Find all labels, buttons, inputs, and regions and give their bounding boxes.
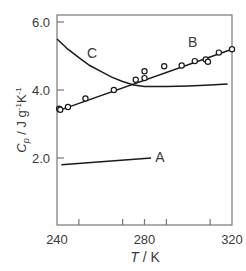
data-point-marker	[216, 50, 221, 55]
series-a-line	[61, 158, 151, 165]
y-tick-label: 4.0	[32, 83, 50, 98]
y-tick-label: 6.0	[32, 15, 50, 30]
series-label-a: A	[155, 149, 165, 165]
x-axis-label: T / K	[130, 249, 160, 265]
data-series	[57, 39, 235, 165]
axes-frame	[57, 15, 232, 225]
axis-ticks: 2402803202.04.06.0	[32, 15, 243, 247]
series-label-c: C	[87, 45, 97, 61]
data-point-marker	[192, 59, 197, 64]
x-tick-label: 320	[221, 232, 243, 247]
heat-capacity-chart: 2402803202.04.06.0 ABC T / K Cp / J g-1K…	[0, 0, 246, 271]
data-point-marker	[133, 77, 138, 82]
data-point-marker	[83, 96, 88, 101]
y-tick-label: 2.0	[32, 151, 50, 166]
data-point-marker	[205, 59, 210, 64]
data-point-marker	[65, 104, 70, 109]
data-point-marker	[58, 107, 63, 112]
series-label-b: B	[188, 34, 197, 50]
plot-area: 2402803202.04.06.0 ABC T / K Cp / J g-1K…	[0, 0, 246, 271]
y-axis-label: Cp / J g-1K-1	[14, 87, 31, 153]
data-point-marker	[142, 76, 147, 81]
data-point-marker	[229, 47, 234, 52]
series-labels: ABC	[87, 34, 197, 165]
x-tick-label: 240	[46, 232, 68, 247]
data-point-marker	[111, 87, 116, 92]
plot-frame	[57, 15, 232, 225]
data-point-marker	[179, 63, 184, 68]
data-point-marker	[142, 69, 147, 74]
data-point-marker	[162, 64, 167, 69]
x-tick-label: 280	[134, 232, 156, 247]
